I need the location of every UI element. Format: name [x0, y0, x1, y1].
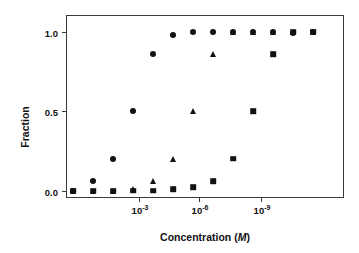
y-axis-tick: 0.5 — [62, 111, 67, 112]
data-point-circle — [190, 29, 196, 35]
y-axis-tick: 0.0 — [62, 191, 67, 192]
data-point-circle — [170, 32, 176, 38]
x-axis-tick: 10-9 — [261, 197, 262, 202]
data-point-circle — [130, 108, 136, 114]
data-point-square — [210, 178, 216, 184]
x-axis-tick-label: 10-6 — [192, 204, 209, 216]
data-point-triangle — [190, 108, 196, 114]
data-layer — [67, 16, 343, 197]
data-point-square — [290, 29, 296, 35]
data-point-circle — [210, 29, 216, 35]
chart-figure: Fraction 0.00.51.010-310-610-9 Concentra… — [0, 0, 359, 253]
data-point-triangle — [270, 29, 276, 35]
data-point-circle — [90, 178, 96, 184]
data-point-square — [190, 185, 196, 191]
y-axis-label: Fraction — [19, 106, 31, 147]
y-axis-tick-label: 0.0 — [45, 186, 58, 197]
data-point-square — [150, 188, 156, 194]
x-axis-tick-label: 10-3 — [132, 204, 149, 216]
data-point-triangle — [250, 29, 256, 35]
data-point-triangle — [210, 51, 216, 57]
x-axis-label-text: Concentration — [160, 231, 231, 243]
data-point-square — [130, 188, 136, 194]
data-point-triangle — [150, 178, 156, 184]
data-point-square — [170, 186, 176, 192]
plot-frame: 0.00.51.010-310-610-9 — [66, 15, 344, 198]
y-axis-tick: 1.0 — [62, 32, 67, 33]
y-axis-tick-label: 0.5 — [45, 107, 58, 118]
x-axis-unit: M — [238, 231, 247, 243]
data-point-circle — [150, 51, 156, 57]
data-point-circle — [110, 156, 116, 162]
x-axis-label: Concentration (M) — [66, 231, 344, 243]
data-point-square — [70, 188, 76, 194]
y-axis-tick-label: 1.0 — [45, 27, 58, 38]
x-axis-unit-paren: (M) — [231, 231, 250, 243]
data-point-triangle — [170, 156, 176, 162]
x-axis-tick-label: 10-9 — [254, 204, 271, 216]
data-point-square — [250, 108, 256, 114]
x-axis-tick: 10-6 — [199, 197, 200, 202]
data-point-triangle — [230, 29, 236, 35]
data-point-square — [110, 188, 116, 194]
data-point-square — [310, 29, 316, 35]
x-axis-tick: 10-3 — [139, 197, 140, 202]
data-point-square — [230, 156, 236, 162]
data-point-square — [90, 188, 96, 194]
data-point-square — [270, 51, 276, 57]
